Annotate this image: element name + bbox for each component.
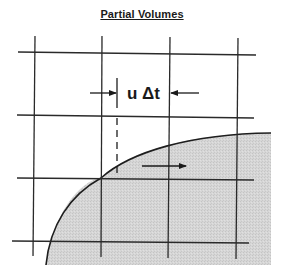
grid-line-h2	[17, 115, 254, 118]
partial-volumes-diagram: u Δt	[0, 0, 284, 277]
grid-line-h1	[18, 52, 256, 55]
grid-line-v1	[33, 36, 35, 256]
velocity-timestep-label: u Δt	[127, 84, 160, 103]
